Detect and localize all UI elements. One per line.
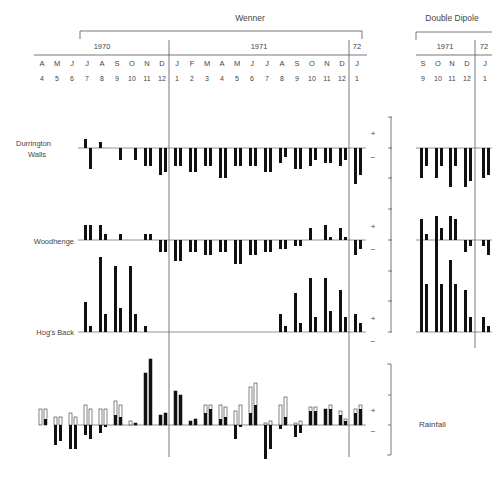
rainfall-effective-bar [264, 425, 267, 459]
month-letter: J [85, 59, 89, 68]
bar [264, 148, 267, 172]
month-number: 6 [70, 75, 74, 82]
dd-bar [425, 284, 428, 332]
bar [234, 240, 237, 264]
bar [179, 240, 182, 261]
rainfall-effective-bar [249, 413, 252, 425]
dd-bar [469, 148, 472, 181]
bar [164, 148, 167, 172]
dd-bar [440, 228, 443, 240]
month-number: 1 [355, 75, 359, 82]
dd-year-label-1971: 1971 [437, 42, 454, 51]
month-letter: A [99, 59, 104, 68]
bar [314, 317, 317, 332]
month-number: 9 [295, 75, 299, 82]
dd-bar [420, 148, 423, 178]
dd-bar [440, 284, 443, 332]
rainfall-effective-bar [224, 417, 227, 425]
month-number: 3 [205, 75, 209, 82]
bar [354, 240, 357, 255]
rainfall-effective-bar [99, 425, 102, 433]
dd-bar [464, 240, 467, 252]
bar [294, 148, 297, 169]
month-number: 8 [280, 75, 284, 82]
bar [104, 234, 107, 240]
bar [159, 148, 162, 175]
month-letter: M [204, 59, 210, 68]
rainfall-effective-bar [59, 425, 62, 441]
dd-bar [435, 148, 438, 178]
dd-bar [487, 240, 490, 255]
bar [134, 314, 137, 332]
minus-sign: − [371, 153, 376, 162]
month-number: 1 [175, 75, 179, 82]
bar [119, 148, 122, 160]
month-number: 4 [220, 75, 224, 82]
month-number: 9 [115, 75, 119, 82]
bar [354, 314, 357, 332]
rainfall-effective-bar [234, 425, 237, 439]
dd-bar [425, 234, 428, 240]
dd-month-letter: O [435, 59, 441, 68]
dd-bar [454, 219, 457, 240]
rainfall-effective-bar [359, 409, 362, 425]
bar [89, 148, 92, 169]
wenner-bracket [80, 31, 362, 39]
rainfall-effective-bar [119, 417, 122, 425]
dd-bar [464, 290, 467, 332]
dd-year-label-72: 72 [480, 42, 488, 51]
dd-bar [487, 326, 490, 332]
year-label-1970: 1970 [94, 42, 111, 51]
rainfall-effective-bar [69, 425, 72, 449]
month-letter: N [324, 59, 329, 68]
dd-bar [469, 317, 472, 332]
bar [234, 148, 237, 166]
bar [204, 148, 207, 166]
bar [189, 240, 192, 252]
rainfall-effective-bar [309, 411, 312, 425]
dd-month-letter: D [464, 59, 470, 68]
bar [254, 148, 257, 166]
dd-month-number: 9 [421, 75, 425, 82]
bar [209, 148, 212, 166]
series-label-woodhenge: Woodhenge [34, 237, 74, 246]
bar [144, 148, 147, 166]
rainfall-total-bar [234, 411, 237, 425]
bar [149, 148, 152, 166]
rainfall-effective-bar [179, 395, 182, 425]
rainfall-effective-bar [284, 417, 287, 425]
month-number: 10 [308, 75, 316, 82]
dd-month-number: 11 [448, 75, 455, 82]
bar [309, 148, 312, 166]
month-letter: F [190, 59, 195, 68]
rainfall-effective-bar [44, 419, 47, 425]
bar [254, 240, 257, 255]
bar [279, 314, 282, 332]
bar [309, 228, 312, 240]
bar [194, 148, 197, 172]
rainfall-effective-bar [54, 425, 57, 445]
rainfall-effective-bar [74, 425, 77, 449]
dd-bar [482, 317, 485, 332]
rainfall-total-bar [74, 417, 77, 425]
rainfall-total-bar [269, 421, 272, 425]
rainfall-effective-bar [204, 413, 207, 425]
month-letter: D [159, 59, 165, 68]
bar [344, 237, 347, 240]
bar [114, 266, 117, 332]
series-label-walls: Walls [28, 150, 46, 159]
bar [299, 323, 302, 332]
dd-month-number: 12 [463, 75, 471, 82]
dd-month-letter: S [420, 59, 425, 68]
dd-bar [482, 240, 485, 246]
bar [84, 302, 87, 332]
rainfall-effective-bar [294, 425, 297, 437]
dd-bar [420, 239, 423, 332]
bar [329, 311, 332, 332]
bar [224, 240, 227, 252]
bar [119, 234, 122, 240]
bar [164, 240, 167, 252]
rainfall-scale-bracket [387, 364, 391, 455]
bar [129, 266, 132, 332]
month-letter: J [175, 59, 179, 68]
